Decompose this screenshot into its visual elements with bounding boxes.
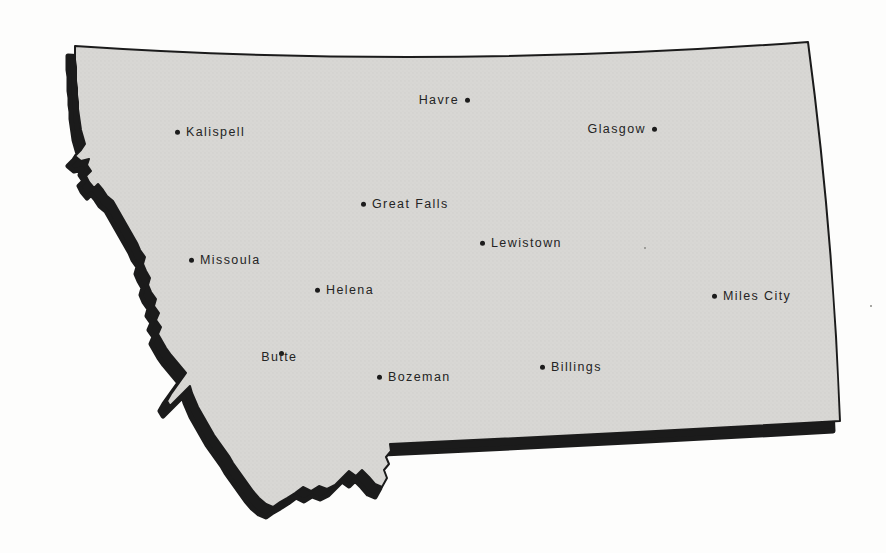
city-label: Helena bbox=[326, 284, 374, 297]
city-marker-missoula: Missoula bbox=[189, 254, 261, 267]
city-label: Great Falls bbox=[372, 198, 449, 211]
city-label: Havre bbox=[419, 94, 459, 107]
city-marker-glasgow: Glasgow bbox=[588, 123, 657, 136]
city-label: Butte bbox=[261, 351, 297, 364]
city-marker-miles-city: Miles City bbox=[712, 290, 791, 303]
city-marker-kalispell: Kalispell bbox=[175, 126, 245, 139]
city-label: Missoula bbox=[200, 254, 261, 267]
city-marker-great-falls: Great Falls bbox=[361, 198, 449, 211]
city-dot bbox=[712, 294, 717, 299]
city-label: Miles City bbox=[723, 290, 791, 303]
city-dot bbox=[175, 130, 180, 135]
city-marker-havre: Havre bbox=[419, 94, 470, 107]
city-layer: KalispellHavreGlasgowGreat FallsMissoula… bbox=[0, 0, 886, 553]
city-dot bbox=[465, 98, 470, 103]
city-label: Kalispell bbox=[186, 126, 245, 139]
city-marker-bozeman: Bozeman bbox=[377, 371, 451, 384]
montana-map: KalispellHavreGlasgowGreat FallsMissoula… bbox=[0, 0, 886, 553]
city-label: Glasgow bbox=[588, 123, 646, 136]
city-label: Bozeman bbox=[388, 371, 451, 384]
city-dot bbox=[480, 241, 485, 246]
city-marker-billings: Billings bbox=[540, 361, 602, 374]
city-marker-lewistown: Lewistown bbox=[480, 237, 562, 250]
city-dot bbox=[361, 202, 366, 207]
city-label: Lewistown bbox=[491, 237, 562, 250]
city-dot bbox=[652, 127, 657, 132]
city-dot bbox=[377, 375, 382, 380]
city-label: Billings bbox=[551, 361, 602, 374]
print-artifact-dot bbox=[644, 247, 646, 249]
city-marker-butte: Butte bbox=[279, 342, 284, 360]
city-dot bbox=[315, 288, 320, 293]
city-marker-helena: Helena bbox=[315, 284, 374, 297]
city-dot bbox=[189, 258, 194, 263]
city-dot bbox=[540, 365, 545, 370]
print-artifact-dot bbox=[870, 305, 872, 307]
